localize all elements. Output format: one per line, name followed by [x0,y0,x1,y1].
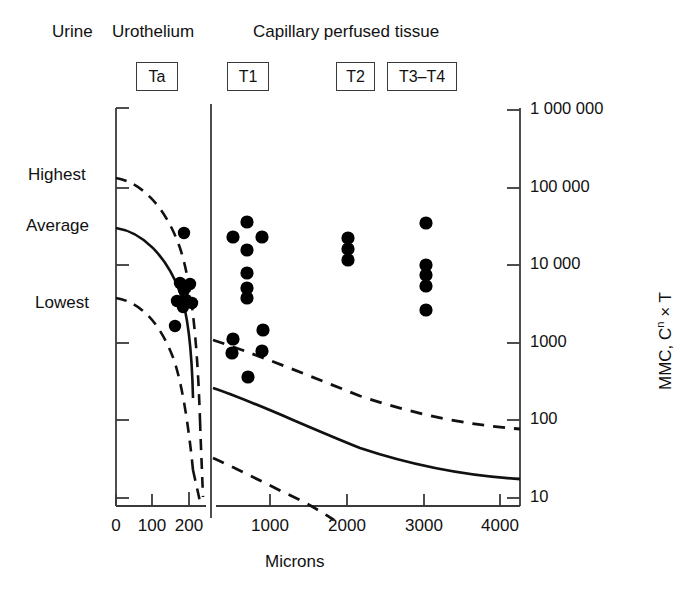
data-point [169,320,181,332]
curve-average-right [213,388,520,479]
stage-box-ta: Ta [136,62,178,91]
curve-lowest-right [213,458,334,520]
x-tick-label: 2000 [317,516,377,536]
x-tick-label: 3000 [394,516,454,536]
data-point [419,303,432,316]
data-point [419,216,432,229]
data-point [419,279,432,292]
left-label-average: Average [26,216,89,236]
x-tick-label: 4000 [470,516,530,536]
data-point [241,370,254,383]
right-axis [507,108,520,506]
y-axis-title: MMC, Cn × T [654,292,676,390]
data-point [240,266,253,279]
points-Ta [169,227,198,332]
left-x-axis [116,492,206,506]
y-tick-label: 100 [530,409,558,428]
data-point [255,344,268,357]
stage-box-t1: T1 [227,62,269,91]
left-label-highest: Highest [28,165,86,185]
data-point [178,227,190,239]
points-T2 [341,231,354,266]
y-axis-title-suffix: × T [656,292,675,321]
header-capillary-perfused-tissue: Capillary perfused tissue [253,22,439,42]
data-point [240,243,253,256]
y-tick-label: 10 [530,487,548,506]
y-axis-title-main: MMC, C [656,328,675,390]
left-axis [116,108,129,506]
y-tick-label: 1 000 000 [530,99,603,118]
x-axis-title: Microns [265,552,325,572]
curve-lowest-left [116,298,193,470]
mmc-depth-figure: Urine Urothelium Capillary perfused tiss… [0,0,684,608]
stage-box-t2: T2 [336,62,375,91]
data-point [240,291,253,304]
right-x-axis [216,494,520,506]
y-tick-label: 10 000 [530,254,580,273]
points-T3-T4 [419,216,432,316]
curve-highest-left-tail [200,420,203,497]
x-tick-label: 1000 [240,516,300,536]
left-label-lowest: Lowest [35,293,89,313]
header-urothelium: Urothelium [112,22,194,42]
header-urine: Urine [52,22,93,42]
data-point [177,301,189,313]
y-tick-label: 100 000 [530,177,590,196]
y-axis-title-superscript: n [654,322,666,328]
data-point [256,323,269,336]
data-point [255,230,268,243]
data-point [226,230,239,243]
data-point [225,346,238,359]
stage-box-t3-t4: T3–T4 [387,62,457,91]
curve-lowest-left-tail [193,470,200,502]
y-tick-label: 1000 [530,332,567,351]
data-point [226,332,239,345]
x-tick-label: 200 [164,516,214,536]
data-point [240,215,253,228]
data-point [341,253,354,266]
